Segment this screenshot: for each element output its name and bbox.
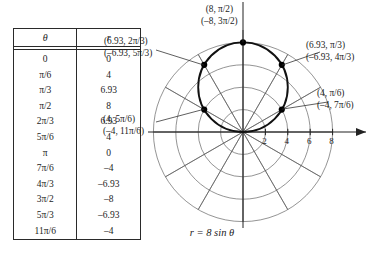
cell-theta: 5π/3 xyxy=(14,208,77,224)
equation-caption: r = 8 sin θ xyxy=(0,227,378,238)
point-label-lower-left-line2: (–4, 11π/6) xyxy=(103,126,144,138)
cell-theta: 4π/3 xyxy=(14,177,77,193)
cell-r: 8 xyxy=(77,99,141,115)
cell-r: –6.93 xyxy=(77,177,141,193)
point-label-upper-left-line1: (6.93, 2π/3) xyxy=(104,36,152,48)
cell-r: –4 xyxy=(77,161,141,177)
table-row: 3π/2–8 xyxy=(14,192,141,208)
table-row: π0 xyxy=(14,146,141,162)
cell-r: 0 xyxy=(77,146,141,162)
table-row: 5π/3–6.93 xyxy=(14,208,141,224)
table-row: π/36.93 xyxy=(14,83,141,99)
cell-r: –6.93 xyxy=(77,208,141,224)
cell-r: 4 xyxy=(77,68,141,84)
cell-theta: π xyxy=(14,146,77,162)
leader-line-upper-left xyxy=(156,50,204,65)
point-label-lower-left: (4, 5π/6) (–4, 11π/6) xyxy=(103,114,144,137)
polar-axis-ticks: 2468 xyxy=(262,129,334,146)
cell-theta: π/6 xyxy=(14,68,77,84)
cell-theta: π/3 xyxy=(14,83,77,99)
polar-plot: 2468 xyxy=(148,2,378,232)
point-label-lower-right-line1: (4, π/6) xyxy=(317,88,354,100)
point-label-upper-left: (6.93, 2π/3) (–6.93, 5π/3) xyxy=(104,36,152,59)
cell-theta: 5π/6 xyxy=(14,130,77,146)
polar-axis-arrowhead xyxy=(356,128,366,136)
point-label-upper-right-line1: (6.93, π/3) xyxy=(306,40,354,52)
cell-theta: 7π/6 xyxy=(14,161,77,177)
polar-plot-svg: 2468 xyxy=(148,2,378,232)
axis-tick-label-6: 6 xyxy=(307,136,312,146)
point-label-lower-right-line2: (–4, 7π/6) xyxy=(317,100,354,112)
table-row: 7π/6–4 xyxy=(14,161,141,177)
point-label-top-line2: (–8, 3π/2) xyxy=(201,16,238,28)
axis-tick-label-8: 8 xyxy=(329,136,334,146)
axis-tick-label-4: 4 xyxy=(285,136,290,146)
cell-r: 6.93 xyxy=(77,83,141,99)
cell-theta: π/2 xyxy=(14,99,77,115)
polar-axis xyxy=(148,2,366,228)
cell-theta: 0 xyxy=(14,50,77,68)
point-label-upper-left-line2: (–6.93, 5π/3) xyxy=(104,48,152,60)
cell-theta: 3π/2 xyxy=(14,192,77,208)
polar-graph-figure: θ r 00π/64π/36.93π/282π/36.935π/64π07π/6… xyxy=(0,0,378,261)
table-row: 4π/3–6.93 xyxy=(14,177,141,193)
cell-r: –8 xyxy=(77,192,141,208)
point-label-top: (8, π/2) (–8, 3π/2) xyxy=(201,4,238,27)
point-label-top-line1: (8, π/2) xyxy=(201,4,238,16)
table-row: π/28 xyxy=(14,99,141,115)
table-body: 00π/64π/36.93π/282π/36.935π/64π07π/6–44π… xyxy=(14,50,141,240)
cell-theta: 2π/3 xyxy=(14,114,77,130)
point-label-upper-right: (6.93, π/3) (–6.93, 4π/3) xyxy=(306,40,354,63)
leader-line-lower-left xyxy=(156,109,204,122)
column-header-theta: θ xyxy=(14,29,77,47)
curve-point-marker xyxy=(279,107,285,113)
table-row: π/64 xyxy=(14,68,141,84)
point-label-lower-right: (4, π/6) (–4, 7π/6) xyxy=(317,88,354,111)
point-label-upper-right-line2: (–6.93, 4π/3) xyxy=(306,52,354,64)
point-label-lower-left-line1: (4, 5π/6) xyxy=(103,114,144,126)
axis-tick-label-2: 2 xyxy=(262,136,267,146)
